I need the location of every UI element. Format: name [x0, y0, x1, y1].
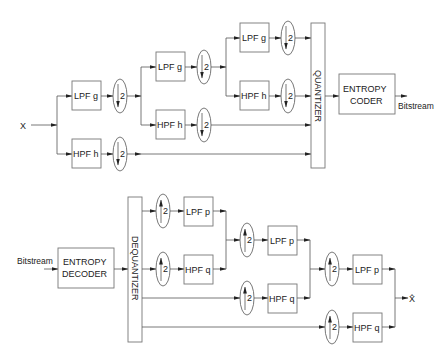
- quantizer-label: QUANTIZER: [313, 70, 323, 123]
- downsample-2-block: 2: [113, 137, 127, 171]
- entropy-coder-block: [339, 74, 395, 114]
- factor-label: 2: [120, 91, 125, 101]
- factor-label: 2: [288, 33, 293, 43]
- filter-label: HPF h: [241, 91, 267, 101]
- factor-label: 2: [332, 322, 337, 332]
- filter-label: HPF h: [73, 149, 99, 159]
- downsample-2-block: 2: [113, 79, 127, 113]
- factor-label: 2: [204, 120, 209, 130]
- decoder: Bitstream ENTROPY DECODER DEQUANTIZER 2 …: [17, 194, 415, 344]
- upsample-2-block: 2: [325, 310, 339, 344]
- entropy-decoder-label-line2: DECODER: [62, 269, 108, 279]
- dequantizer-label: DEQUANTIZER: [130, 236, 140, 301]
- filter-label: LPF g: [242, 33, 266, 43]
- factor-label: 2: [120, 149, 125, 159]
- filter-label: LPF p: [270, 236, 294, 246]
- factor-label: 2: [288, 91, 293, 101]
- downsample-2-block: 2: [197, 50, 211, 84]
- entropy-decoder-label-line1: ENTROPY: [63, 257, 107, 267]
- entropy-decoder-block: [58, 248, 114, 288]
- input-bitstream-label: Bitstream: [17, 256, 53, 266]
- encoder: X LPF g HPF h 2 2 LPF: [20, 21, 434, 171]
- upsample-2-block: 2: [325, 252, 339, 286]
- diagram-svg: X LPF g HPF h 2 2 LPF: [0, 0, 445, 359]
- output-bitstream-label: Bitstream: [398, 101, 434, 111]
- wavelet-codec-diagram: X LPF g HPF h 2 2 LPF: [0, 0, 445, 359]
- factor-label: 2: [204, 62, 209, 72]
- downsample-2-block: 2: [281, 21, 295, 55]
- output-xhat-label: X̂: [409, 294, 415, 304]
- factor-label: 2: [332, 264, 337, 274]
- upsample-2-block: 2: [156, 194, 170, 228]
- filter-label: HPF q: [269, 294, 295, 304]
- filter-label: LPF p: [355, 265, 379, 275]
- factor-label: 2: [163, 206, 168, 216]
- filter-label: HPF q: [185, 265, 211, 275]
- upsample-2-block: 2: [240, 223, 254, 257]
- factor-label: 2: [247, 293, 252, 303]
- filter-label: HPF q: [354, 323, 380, 333]
- upsample-2-block: 2: [156, 252, 170, 286]
- filter-label: LPF g: [158, 62, 182, 72]
- downsample-2-block: 2: [281, 79, 295, 113]
- filter-label: LPF g: [74, 91, 98, 101]
- filter-label: LPF p: [186, 207, 210, 217]
- input-x-label: X: [20, 121, 26, 131]
- downsample-2-block: 2: [197, 108, 211, 142]
- factor-label: 2: [163, 264, 168, 274]
- upsample-2-block: 2: [240, 281, 254, 315]
- entropy-coder-label-line1: ENTROPY: [343, 84, 387, 94]
- filter-label: HPF h: [157, 120, 183, 130]
- entropy-coder-label-line2: CODER: [350, 96, 383, 106]
- factor-label: 2: [247, 235, 252, 245]
